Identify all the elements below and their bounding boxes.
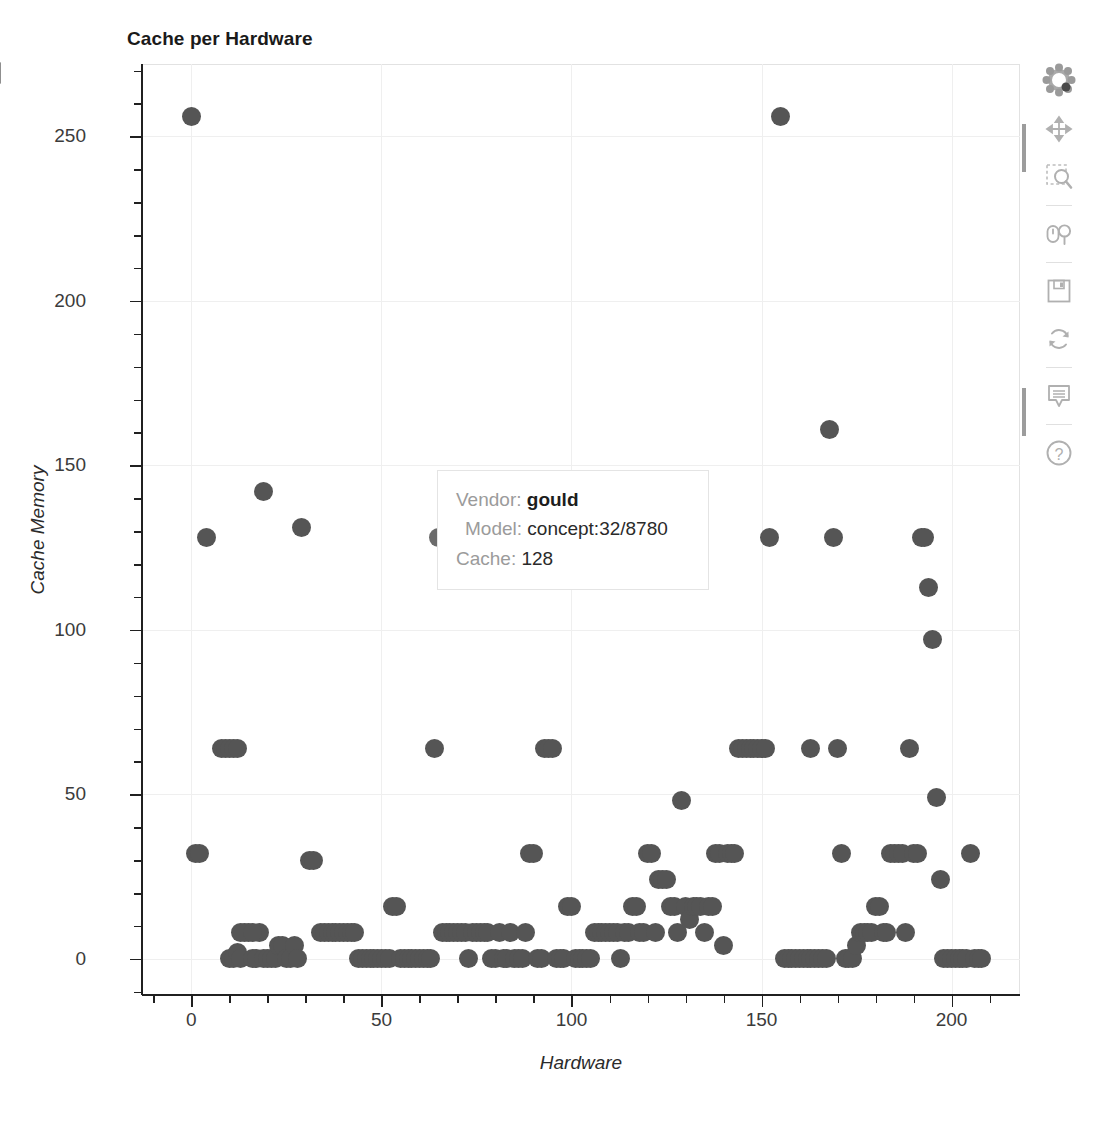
scatter-point[interactable] xyxy=(243,923,262,942)
scatter-point[interactable] xyxy=(900,739,919,758)
scatter-point[interactable] xyxy=(695,923,714,942)
y-tick-label: 50 xyxy=(65,783,86,805)
scatter-point[interactable] xyxy=(725,844,744,863)
x-tick-minor xyxy=(533,996,535,1003)
scatter-point[interactable] xyxy=(820,420,839,439)
scatter-point[interactable] xyxy=(292,518,311,537)
x-tick-minor xyxy=(610,996,612,1003)
wheel-zoom-tool[interactable] xyxy=(1038,213,1080,255)
y-tick-minor xyxy=(134,235,141,237)
scatter-point[interactable] xyxy=(304,851,323,870)
y-tick-minor xyxy=(134,169,141,171)
scatter-point[interactable] xyxy=(627,897,646,916)
scatter-point[interactable] xyxy=(870,897,889,916)
reset-tool[interactable] xyxy=(1038,318,1080,360)
x-tick-minor xyxy=(419,996,421,1003)
y-tick-minor xyxy=(134,663,141,665)
y-tick-label: 250 xyxy=(54,125,86,147)
y-tick-label: 100 xyxy=(54,619,86,641)
x-tick-minor xyxy=(686,996,688,1003)
scatter-point[interactable] xyxy=(896,923,915,942)
scatter-point[interactable] xyxy=(931,870,950,889)
scatter-point[interactable] xyxy=(828,739,847,758)
scatter-point[interactable] xyxy=(760,528,779,547)
x-tick-major xyxy=(381,996,383,1007)
scatter-point[interactable] xyxy=(425,739,444,758)
scatter-point[interactable] xyxy=(824,528,843,547)
scatter-point[interactable] xyxy=(581,949,600,968)
x-tick-major xyxy=(952,996,954,1007)
scatter-point[interactable] xyxy=(817,949,836,968)
x-tick-minor xyxy=(800,996,802,1003)
scatter-point[interactable] xyxy=(908,844,927,863)
tooltip-model-value: concept:32/8780 xyxy=(527,518,668,539)
bokeh-logo[interactable] xyxy=(1039,60,1079,100)
x-tick-label: 100 xyxy=(556,1009,588,1031)
scatter-point[interactable] xyxy=(657,870,676,889)
x-tick-minor xyxy=(495,996,497,1003)
scatter-point[interactable] xyxy=(915,528,934,547)
pan-tool[interactable] xyxy=(1038,108,1080,150)
x-tick-major xyxy=(762,996,764,1007)
y-tick-minor xyxy=(134,696,141,698)
scatter-point[interactable] xyxy=(801,739,820,758)
scatter-point[interactable] xyxy=(703,897,722,916)
scatter-point[interactable] xyxy=(459,949,478,968)
scatter-point[interactable] xyxy=(288,949,307,968)
scatter-point[interactable] xyxy=(832,844,851,863)
grid-line-horizontal xyxy=(142,465,1020,466)
grid-line-vertical xyxy=(952,64,953,995)
tooltip-cache-label: Cache: xyxy=(456,548,516,569)
y-tick-label: 0 xyxy=(75,948,86,970)
scatter-point[interactable] xyxy=(646,923,665,942)
scatter-point[interactable] xyxy=(756,739,775,758)
y-tick-minor xyxy=(134,860,141,862)
scatter-point[interactable] xyxy=(611,949,630,968)
y-axis-title: Cache Memory xyxy=(27,466,49,595)
scatter-point[interactable] xyxy=(524,844,543,863)
scatter-point[interactable] xyxy=(877,923,896,942)
y-tick-minor xyxy=(134,432,141,434)
scatter-point[interactable] xyxy=(387,897,406,916)
scatter-point[interactable] xyxy=(182,107,201,126)
y-tick-label: 200 xyxy=(54,290,86,312)
scatter-point[interactable] xyxy=(642,844,661,863)
scatter-point[interactable] xyxy=(543,739,562,758)
scatter-point[interactable] xyxy=(923,630,942,649)
scatter-point[interactable] xyxy=(961,844,980,863)
scatter-point[interactable] xyxy=(228,739,247,758)
scatter-point[interactable] xyxy=(672,791,691,810)
grid-line-vertical xyxy=(381,64,382,995)
scatter-point[interactable] xyxy=(562,897,581,916)
help-tool[interactable]: ? xyxy=(1038,432,1080,474)
plot-toolbar[interactable]: ? xyxy=(1031,60,1087,474)
scatter-point[interactable] xyxy=(714,936,733,955)
scatter-point[interactable] xyxy=(919,578,938,597)
x-tick-minor xyxy=(229,996,231,1003)
y-tick-minor xyxy=(134,531,141,533)
scatter-point[interactable] xyxy=(197,528,216,547)
y-tick-minor xyxy=(134,367,141,369)
x-axis-title: Hardware xyxy=(540,1052,622,1074)
grid-line-horizontal xyxy=(142,136,1020,137)
y-tick-major xyxy=(130,959,141,961)
scatter-point[interactable] xyxy=(254,482,273,501)
hover-tooltip: Vendor: gould Model: concept:32/8780 Cac… xyxy=(437,470,709,590)
toolbar-divider xyxy=(1046,367,1072,368)
x-tick-minor xyxy=(648,996,650,1003)
x-tick-minor xyxy=(990,996,992,1003)
y-axis-line xyxy=(141,64,143,995)
toolbar-divider xyxy=(1046,262,1072,263)
scatter-point[interactable] xyxy=(345,923,364,942)
scatter-point[interactable] xyxy=(771,107,790,126)
scatter-point[interactable] xyxy=(421,949,440,968)
scatter-point[interactable] xyxy=(516,923,535,942)
y-tick-major xyxy=(130,794,141,796)
scatter-point[interactable] xyxy=(972,949,991,968)
save-tool[interactable] xyxy=(1038,270,1080,312)
hover-tool[interactable] xyxy=(1038,375,1080,417)
box-zoom-tool[interactable] xyxy=(1038,156,1080,198)
scatter-point[interactable] xyxy=(927,788,946,807)
scatter-point[interactable] xyxy=(190,844,209,863)
y-tick-minor xyxy=(134,992,141,994)
